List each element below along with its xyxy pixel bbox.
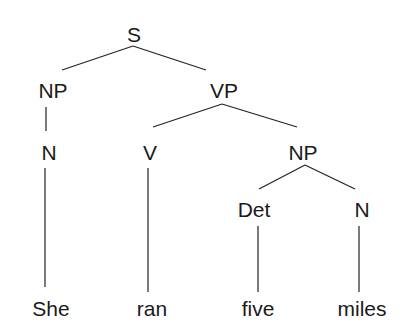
tree-node-np2: NP bbox=[288, 142, 317, 163]
tree-node-n1: N bbox=[41, 142, 56, 163]
tree-node-s: S bbox=[127, 24, 141, 45]
tree-node-det: Det bbox=[238, 199, 271, 220]
tree-node-ran: ran bbox=[137, 298, 167, 319]
tree-node-miles: miles bbox=[337, 298, 386, 319]
tree-node-five: five bbox=[242, 298, 275, 319]
tree-node-v: V bbox=[143, 142, 157, 163]
tree-edge-np2-det bbox=[259, 165, 305, 189]
tree-edge-vp-np2 bbox=[222, 104, 297, 127]
syntax-tree: SNPVPNVNPDetNSheranfivemiles bbox=[0, 0, 414, 336]
tree-node-vp: VP bbox=[210, 80, 238, 101]
tree-node-she: She bbox=[32, 298, 69, 319]
tree-edge-np2-n2 bbox=[305, 165, 355, 189]
tree-node-n2: N bbox=[354, 199, 369, 220]
tree-edges bbox=[0, 0, 414, 336]
tree-edge-s-vp bbox=[133, 46, 206, 70]
tree-edge-s-np1 bbox=[62, 46, 133, 70]
tree-node-np1: NP bbox=[38, 80, 67, 101]
tree-edge-vp-v bbox=[153, 104, 222, 127]
